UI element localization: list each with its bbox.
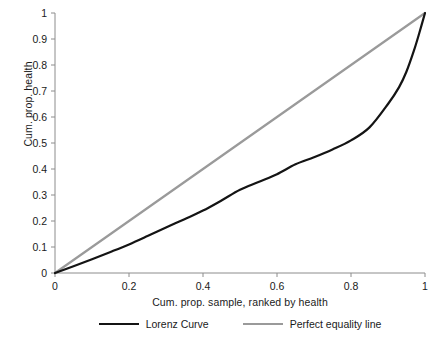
x-tick-label: 0.4 bbox=[183, 281, 223, 292]
legend-entry: Perfect equality line bbox=[243, 319, 382, 330]
x-tick-label: 0 bbox=[35, 281, 75, 292]
legend-label: Lorenz Curve bbox=[146, 319, 209, 330]
x-tick-label: 0.2 bbox=[109, 281, 149, 292]
legend-label: Perfect equality line bbox=[290, 319, 382, 330]
x-tick-label: 0.8 bbox=[331, 281, 371, 292]
x-axis-tick-labels: 00.20.40.60.81 bbox=[0, 0, 440, 345]
chart-legend: Lorenz CurvePerfect equality line bbox=[55, 319, 425, 330]
legend-line-swatch bbox=[99, 323, 139, 325]
x-tick-label: 0.6 bbox=[257, 281, 297, 292]
x-tick-label: 1 bbox=[405, 281, 440, 292]
lorenz-curve-chart: Cum. prop. health 00.10.20.30.40.50.60.7… bbox=[0, 0, 440, 345]
legend-line-swatch bbox=[243, 323, 283, 325]
x-axis-title: Cum. prop. sample, ranked by health bbox=[55, 296, 425, 308]
legend-entry: Lorenz Curve bbox=[99, 319, 209, 330]
